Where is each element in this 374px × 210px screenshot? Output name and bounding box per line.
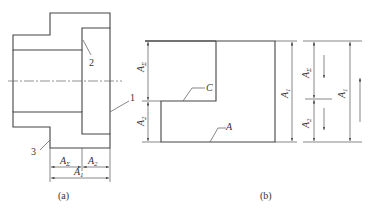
surface-c-label: C: [206, 82, 213, 93]
dimension-chain-diagram: 2 1 3 AΣ A2 A1 (a) AΣ A2 C: [0, 0, 374, 210]
part-label-2: 2: [89, 57, 94, 68]
caption-b: (b): [260, 190, 272, 202]
surface-a-label: A: [225, 121, 233, 132]
chain-a2-label: A2: [300, 118, 313, 129]
dim-a2-label: A2: [87, 155, 98, 168]
dim-a-sigma-label: AΣ: [59, 155, 71, 168]
lower-section-hatch: [13, 112, 110, 148]
caption-a: (a): [58, 190, 69, 202]
part-label-1: 1: [130, 92, 135, 103]
dim-b-a-sigma-label: AΣ: [135, 61, 148, 73]
upper-section-hatch: [13, 13, 110, 50]
chain-a-sigma-label: AΣ: [300, 67, 313, 79]
figure-a-section: 2 1 3 AΣ A2 A1 (a): [8, 13, 135, 202]
figure-b-chain: AΣ A2 C A A1 AΣ A2 A1 (b): [135, 41, 362, 202]
dim-b-a2-label: A2: [135, 116, 148, 127]
chain-a1-label: A1: [336, 88, 349, 99]
dimension-chain: AΣ A2 A1: [300, 41, 362, 142]
dim-b-a1-label: A1: [279, 88, 292, 99]
part-label-3: 3: [31, 146, 36, 157]
